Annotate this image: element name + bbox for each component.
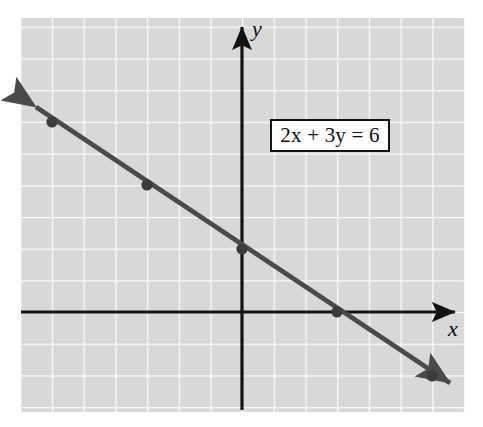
data-point — [46, 116, 57, 127]
x-axis-label: x — [448, 318, 458, 340]
graph-figure: 2x + 3y = 6 y x — [0, 0, 483, 427]
equation-label-box: 2x + 3y = 6 — [270, 119, 390, 152]
data-point — [236, 243, 247, 254]
equation-text: 2x + 3y = 6 — [280, 123, 379, 148]
data-point — [331, 306, 342, 317]
data-point — [426, 370, 437, 381]
coordinate-plane — [0, 0, 483, 427]
data-point — [141, 179, 152, 190]
y-axis-label: y — [252, 18, 262, 40]
